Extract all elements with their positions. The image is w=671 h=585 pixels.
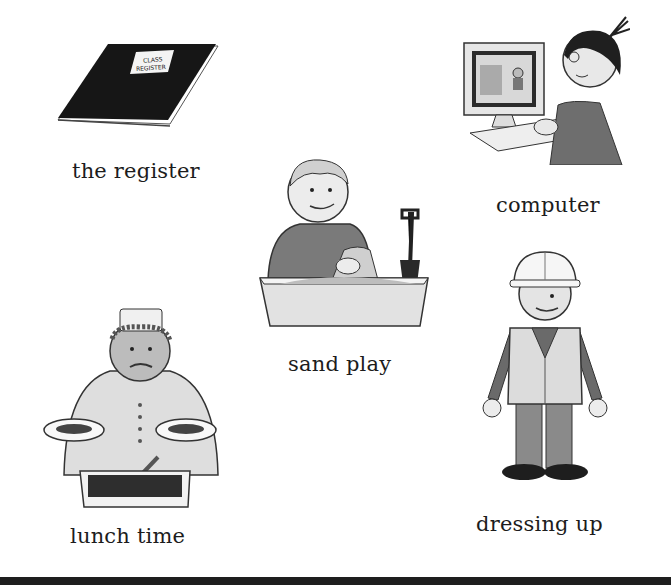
class-register-book-icon: CLASS REGISTER	[52, 40, 222, 130]
lunch-time-illustration	[40, 305, 240, 510]
label-dressing-up: dressing up	[476, 512, 603, 536]
child-in-hard-hat-icon	[470, 248, 620, 488]
dinner-lady-serving-icon	[40, 305, 240, 510]
computer-illustration	[450, 15, 630, 165]
child-in-sandpit-icon	[240, 150, 440, 335]
bottom-border-bar	[0, 577, 671, 585]
label-the-register: the register	[72, 159, 200, 183]
sand-play-illustration	[240, 150, 440, 335]
dressing-up-illustration	[470, 248, 620, 488]
child-at-computer-icon	[450, 15, 630, 165]
label-computer: computer	[496, 193, 600, 217]
label-sand-play: sand play	[288, 352, 391, 376]
label-lunch-time: lunch time	[70, 524, 185, 548]
class-register-illustration: CLASS REGISTER	[52, 40, 222, 130]
